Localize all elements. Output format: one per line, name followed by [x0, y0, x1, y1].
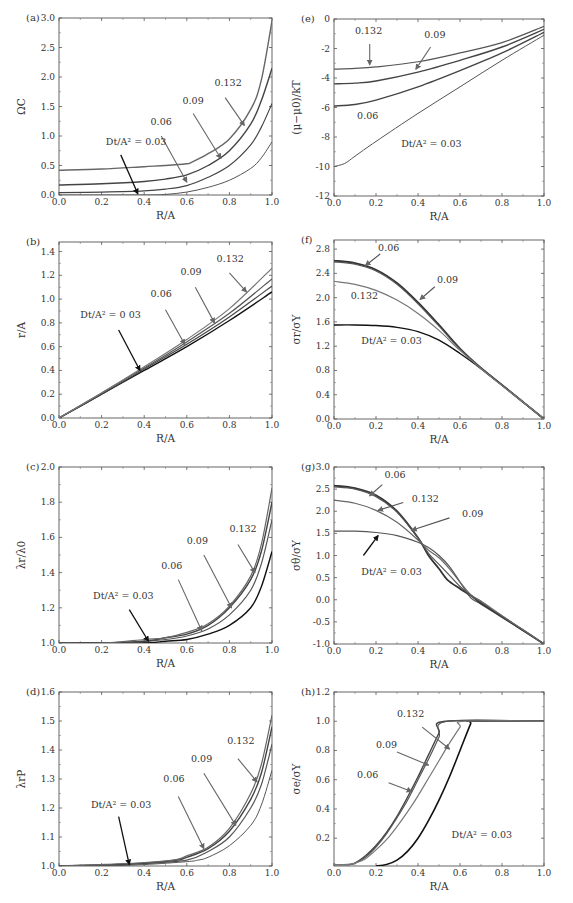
- y-tick-label: -4: [321, 73, 330, 83]
- annotation-arrow-icon: [412, 518, 450, 530]
- y-tick-label: 0.4: [316, 390, 331, 400]
- x-tick-label: 0.6: [180, 197, 195, 207]
- panel-label: (c): [26, 461, 40, 472]
- y-tick-label: 1.2: [41, 803, 55, 813]
- series-line: [334, 721, 544, 865]
- plot-frame: [59, 467, 272, 643]
- panel-label: (a): [26, 12, 40, 23]
- y-tick-label: 0.0: [41, 413, 56, 423]
- x-tick-label: 0.4: [137, 868, 152, 878]
- x-tick-label: 0.8: [495, 198, 510, 208]
- x-axis-label: R/A: [156, 657, 175, 669]
- panel-e: 0.00.20.40.60.81.00-2-4-6-8-10-12(e)R/A(…: [290, 13, 551, 222]
- annotation-label: 0.132: [355, 25, 382, 36]
- panel-label: (f): [301, 234, 313, 245]
- series-line: [59, 142, 272, 195]
- x-axis-label: R/A: [429, 210, 448, 222]
- annotation-label: 0.09: [376, 739, 397, 750]
- annotation-label: 0.132: [412, 493, 439, 504]
- y-axis-label: λrP: [15, 770, 27, 789]
- y-tick-label: 1.4: [41, 745, 56, 755]
- annotation-label: 0.09: [183, 95, 204, 106]
- y-tick-label: -6: [321, 103, 330, 113]
- x-tick-label: 0.8: [495, 421, 510, 431]
- y-tick-label: 0.2: [41, 389, 55, 399]
- y-tick-label: 0.6: [316, 775, 331, 785]
- annotation-arrow-icon: [416, 47, 431, 69]
- annotation-label: 0.06: [163, 773, 184, 784]
- chart-canvas: 0.00.20.40.60.81.00.00.51.01.52.02.53.0(…: [0, 0, 573, 903]
- y-tick-label: 1.0: [41, 638, 56, 648]
- panel-h: 0.00.20.40.60.81.00.20.40.60.81.01.2(h)R…: [290, 686, 551, 892]
- x-tick-label: 0.0: [327, 868, 342, 878]
- annotation-arrow-icon: [225, 98, 244, 126]
- series-line: [334, 720, 544, 864]
- annotation-label: 0.132: [227, 735, 254, 746]
- x-tick-label: 0.8: [495, 646, 510, 656]
- y-tick-label: 0.8: [316, 365, 331, 375]
- annotation-arrow-icon: [204, 773, 236, 825]
- x-tick-label: 0.2: [94, 645, 108, 655]
- series-line: [376, 721, 544, 866]
- annotation-label: 0.06: [161, 560, 182, 571]
- x-tick-label: 1.0: [537, 198, 552, 208]
- annotation-arrow-icon: [121, 155, 138, 194]
- x-tick-label: 0.4: [411, 421, 426, 431]
- y-tick-label: -10: [316, 162, 331, 172]
- annotation-label: Dt/A² = 0.03: [93, 590, 153, 601]
- y-tick-label: 1.1: [41, 832, 55, 842]
- y-tick-label: -1.0: [313, 639, 331, 649]
- x-axis-label: R/A: [156, 880, 175, 892]
- x-tick-label: 0.2: [369, 421, 383, 431]
- y-tick-label: 0.2: [316, 833, 330, 843]
- x-axis-label: R/A: [156, 432, 175, 444]
- series-line: [59, 21, 272, 170]
- annotation-label: Dt/A² = 0.03: [361, 566, 421, 577]
- panel-label: (g): [301, 461, 315, 472]
- y-tick-label: 3.0: [41, 13, 56, 23]
- y-tick-label: -8: [321, 132, 330, 142]
- y-tick-label: 1.0: [41, 861, 56, 871]
- y-tick-label: 0.8: [41, 318, 56, 328]
- y-axis-label: λr/λ0: [15, 541, 27, 570]
- y-tick-label: 2.0: [41, 72, 56, 82]
- x-tick-label: 0.8: [222, 868, 237, 878]
- x-tick-label: 1.0: [537, 868, 552, 878]
- y-tick-label: 1.6: [316, 317, 331, 327]
- y-tick-label: 2.5: [41, 43, 56, 53]
- annotation-arrow-icon: [178, 580, 201, 631]
- y-tick-label: 1.0: [316, 551, 331, 561]
- x-tick-label: 1.0: [265, 197, 280, 207]
- y-axis-label: (μ−μ0)/kT: [290, 80, 302, 134]
- series-line: [59, 727, 272, 866]
- annotation-arrow-icon: [389, 783, 412, 792]
- x-tick-label: 1.0: [265, 868, 280, 878]
- annotation-arrow-icon: [363, 536, 378, 556]
- annotation-arrow-icon: [195, 287, 214, 323]
- y-axis-label: σe/σY: [290, 762, 302, 794]
- annotation-arrow-icon: [193, 114, 221, 159]
- y-tick-label: 2.0: [316, 506, 331, 516]
- x-tick-label: 1.0: [537, 421, 552, 431]
- annotation-label: 0.132: [217, 253, 244, 264]
- panel-g: 0.00.20.40.60.81.0-1.0-0.50.00.51.01.52.…: [290, 461, 551, 670]
- y-tick-label: 0.0: [41, 190, 56, 200]
- annotation-arrow-icon: [178, 796, 204, 848]
- annotation-arrow-icon: [422, 727, 449, 749]
- panel-f: 0.00.20.40.60.81.00.00.40.81.21.62.02.42…: [290, 234, 551, 445]
- series-line: [334, 531, 544, 644]
- x-tick-label: 0.2: [369, 198, 383, 208]
- x-tick-label: 0.4: [137, 420, 152, 430]
- x-tick-label: 0.8: [495, 868, 510, 878]
- annotation-label: 0.06: [357, 110, 378, 121]
- panel-b: 0.00.20.40.60.81.00.00.20.40.60.81.01.21…: [15, 236, 279, 444]
- y-tick-label: 0.0: [316, 595, 331, 605]
- x-tick-label: 0.4: [411, 646, 426, 656]
- x-tick-label: 0.2: [369, 646, 383, 656]
- x-axis-label: R/A: [429, 658, 448, 670]
- series-line: [334, 720, 544, 865]
- annotation-label: Dt/A² = 0.03: [91, 799, 151, 810]
- annotation-label: 0.09: [437, 274, 458, 285]
- y-axis-label: σθ/σY: [290, 539, 302, 571]
- y-tick-label: 1.0: [41, 131, 56, 141]
